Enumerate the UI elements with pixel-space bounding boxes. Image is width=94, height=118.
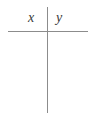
label-x: x xyxy=(28,11,34,25)
vertical-rule xyxy=(47,7,48,113)
figure-canvas: x y xyxy=(0,0,94,118)
label-y: y xyxy=(56,11,62,25)
horizontal-rule xyxy=(8,31,88,32)
